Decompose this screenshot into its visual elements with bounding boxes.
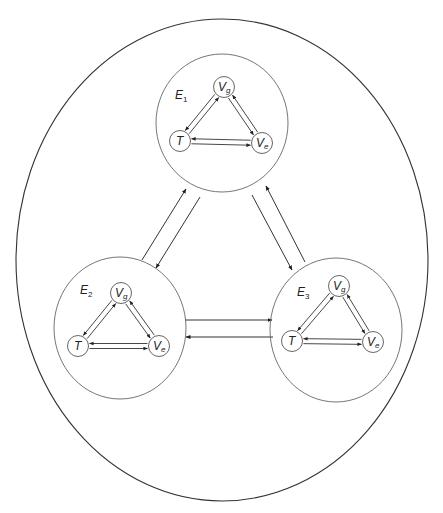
edge-vg-to-t (185, 94, 214, 130)
node-ve: Ve (252, 133, 273, 154)
edge-ve-to-t (304, 339, 362, 340)
link-E2-to-E1 (142, 189, 186, 260)
edge-t-to-ve (191, 144, 250, 145)
edge-vg-to-ve (228, 98, 253, 135)
edge-vg-to-ve (126, 304, 151, 338)
cluster-e2: E2VgTVe (54, 257, 186, 399)
link-E1-to-E2 (156, 197, 200, 268)
edge-t-to-vg (189, 97, 218, 133)
edge-ve-to-vg (130, 301, 155, 335)
cluster-label: E2 (80, 283, 93, 299)
inner-edges (83, 300, 154, 348)
edge-t-to-ve (303, 344, 361, 345)
link-E1-to-E3 (252, 195, 292, 270)
cluster-e1: E1VgTVe (156, 54, 288, 192)
system-diagram: E1VgTVeE2VgTVeE3VgTVe (0, 0, 443, 513)
node-t: T (68, 336, 89, 357)
cluster-boundary (156, 54, 288, 192)
edge-ve-to-t (192, 139, 251, 140)
node-vg: Vg (214, 77, 235, 98)
edge-vg-to-ve (343, 297, 365, 333)
clusters: E1VgTVeE2VgTVeE3VgTVe (54, 54, 402, 402)
cluster-e3: E3VgTVe (270, 258, 402, 402)
node-t: T (282, 331, 303, 352)
cluster-boundary (54, 257, 186, 399)
edge-vg-to-t (83, 300, 112, 335)
inner-edges (185, 94, 257, 145)
edge-ve-to-vg (347, 295, 369, 331)
cluster-label: E3 (297, 285, 310, 301)
edge-ve-to-vg (233, 95, 258, 132)
link-E3-to-E1 (266, 186, 305, 262)
node-vg: Vg (329, 276, 350, 297)
edge-t-to-vg (301, 296, 333, 334)
cluster-links (142, 186, 305, 337)
edge-t-to-vg (87, 304, 116, 339)
node-ve: Ve (149, 336, 170, 357)
node-ve: Ve (363, 332, 384, 353)
node-t: T (170, 131, 191, 152)
cluster-label: E1 (175, 88, 188, 104)
node-vg: Vg (111, 283, 132, 304)
